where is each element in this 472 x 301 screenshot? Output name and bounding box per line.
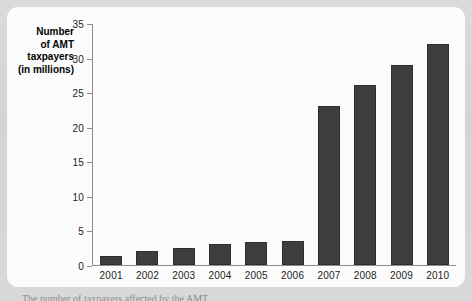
y-axis-tick [87,162,92,163]
bar [354,85,376,265]
bar-group: 2008 [347,24,383,265]
x-axis-tick-label: 2003 [172,270,195,281]
x-axis-tick-label: 2005 [245,270,268,281]
bar [318,106,340,265]
bar [100,256,122,265]
bar [391,65,413,266]
bar [209,244,231,265]
y-axis-tick [87,59,92,60]
bar [173,248,195,265]
y-axis-title: Number of AMT taxpayers (in millions) [18,26,74,76]
y-axis-tick-label: 15 [72,157,84,168]
bar-group: 2006 [274,24,310,265]
bar-group: 2004 [202,24,238,265]
bar-group: 2003 [166,24,202,265]
y-axis-title-line-4: (in millions) [18,64,74,77]
y-axis-title-line-1: Number [18,26,74,39]
y-axis-tick-label: 10 [72,191,84,202]
y-axis-tick-label: 0 [78,261,84,272]
bar-group: 2009 [383,24,419,265]
bar-group: 2002 [129,24,165,265]
bar-group: 2001 [93,24,129,265]
x-axis-tick-label: 2009 [390,270,413,281]
bar [136,251,158,265]
bar [427,44,449,265]
y-axis-tick-label: 35 [72,19,84,30]
y-axis-tick [87,93,92,94]
y-axis-tick [87,197,92,198]
y-axis-tick-label: 30 [72,53,84,64]
y-axis-title-line-3: taxpayers [18,51,74,64]
figure-caption: The number of taxpayers affected by the … [22,293,208,301]
x-axis-tick-label: 2006 [281,270,304,281]
bar-chart-plot-area: Number of AMT taxpayers (in millions) 05… [92,24,456,274]
x-axis-tick-label: 2004 [209,270,232,281]
y-axis-tick [87,24,92,25]
bar-group: 2005 [238,24,274,265]
bar-series: 2001200220032004200520062007200820092010 [93,24,456,265]
scanned-page-background: Number of AMT taxpayers (in millions) 05… [0,0,472,301]
y-axis-tick [87,128,92,129]
y-axis-tick [87,266,92,267]
x-axis-tick-label: 2010 [426,270,449,281]
y-axis-tick-label: 5 [78,226,84,237]
y-axis-tick-label: 25 [72,88,84,99]
y-axis-tick [87,231,92,232]
bar-group: 2007 [311,24,347,265]
y-axis-tick-label: 20 [72,122,84,133]
x-axis-tick-label: 2008 [354,270,377,281]
x-axis-tick-label: 2002 [136,270,159,281]
y-axis-title-line-2: of AMT [18,39,74,52]
x-axis-line [92,265,456,266]
chart-card: Number of AMT taxpayers (in millions) 05… [8,8,464,286]
x-axis-tick-label: 2001 [100,270,123,281]
bar [282,241,304,265]
x-axis-tick-label: 2007 [317,270,340,281]
bar-group: 2010 [420,24,456,265]
bar [245,242,267,266]
